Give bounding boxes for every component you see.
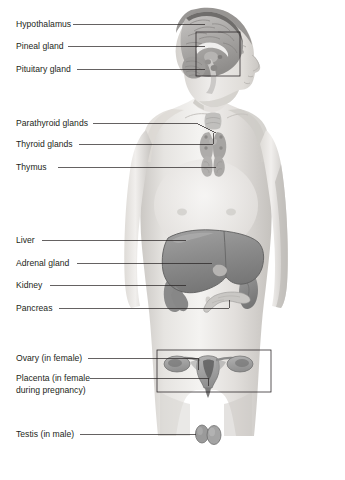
abdominal-organs (162, 230, 263, 312)
labels: Hypothalamus Pineal gland Pituitary glan… (16, 19, 90, 439)
anatomy-illustration: Hypothalamus Pineal gland Pituitary glan… (0, 0, 345, 480)
label-pineal-gland: Pineal gland (16, 41, 64, 51)
label-ovary: Ovary (in female) (16, 353, 82, 363)
label-placenta-line2: during pregnancy) (16, 385, 86, 395)
label-kidney: Kidney (16, 280, 43, 290)
label-pancreas: Pancreas (16, 303, 52, 313)
label-adrenal-gland: Adrenal gland (16, 258, 69, 268)
label-testis: Testis (in male) (16, 429, 74, 439)
label-pituitary-gland: Pituitary gland (16, 64, 71, 74)
label-placenta: Placenta (in female (16, 373, 90, 383)
endocrine-system-figure: Hypothalamus Pineal gland Pituitary glan… (0, 0, 345, 480)
label-parathyroid-glands: Parathyroid glands (16, 118, 88, 128)
label-liver: Liver (16, 235, 35, 245)
label-thymus: Thymus (16, 162, 47, 172)
label-thyroid-glands: Thyroid glands (16, 139, 73, 149)
label-hypothalamus: Hypothalamus (16, 19, 71, 29)
